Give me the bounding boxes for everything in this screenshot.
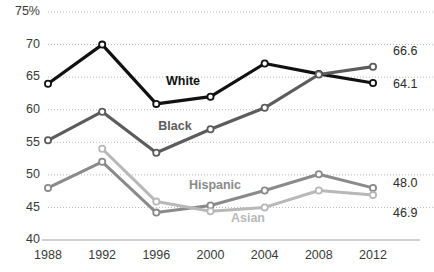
data-point-asian bbox=[262, 204, 268, 210]
data-point-white bbox=[45, 81, 51, 87]
data-point-asian bbox=[370, 192, 376, 198]
series-label-hispanic: Hispanic bbox=[189, 178, 241, 192]
series-label-black: Black bbox=[158, 119, 191, 133]
data-point-asian bbox=[99, 146, 105, 152]
x-axis-labels: 1988199219962000200420082012 bbox=[34, 248, 387, 262]
x-tick-label-2012: 2012 bbox=[359, 248, 387, 262]
y-axis-labels: 4045505560657075% bbox=[15, 4, 40, 246]
data-point-hispanic bbox=[316, 171, 322, 177]
data-point-black bbox=[370, 64, 376, 70]
end-value-label-white: 64.1 bbox=[393, 77, 417, 91]
series-label-white: White bbox=[166, 74, 200, 88]
x-tick-label-2000: 2000 bbox=[197, 248, 225, 262]
data-point-white bbox=[262, 60, 268, 66]
end-value-label-black: 66.6 bbox=[393, 44, 417, 58]
end-value-label-hispanic: 48.0 bbox=[393, 176, 417, 190]
data-point-black bbox=[45, 137, 51, 143]
y-tick-label-70: 70 bbox=[26, 37, 40, 51]
chart-container: 4045505560657075% 1988199219962000200420… bbox=[0, 0, 434, 272]
data-point-hispanic bbox=[153, 210, 159, 216]
x-tick-label-2004: 2004 bbox=[251, 248, 279, 262]
data-point-black bbox=[207, 126, 213, 132]
data-point-black bbox=[153, 150, 159, 156]
y-tick-label-60: 60 bbox=[26, 102, 40, 116]
x-tick-label-2008: 2008 bbox=[305, 248, 333, 262]
y-tick-label-50: 50 bbox=[26, 167, 40, 181]
line-chart: 4045505560657075% 1988199219962000200420… bbox=[0, 0, 434, 272]
y-tick-label-65: 65 bbox=[26, 69, 40, 83]
x-tick-label-1988: 1988 bbox=[34, 248, 62, 262]
data-point-asian bbox=[207, 208, 213, 214]
y-tick-label-75pct: 75% bbox=[15, 4, 40, 18]
data-point-asian bbox=[153, 199, 159, 205]
series-end-value-labels: 66.664.148.046.9 bbox=[393, 44, 417, 220]
data-point-black bbox=[316, 71, 322, 77]
data-point-hispanic bbox=[99, 159, 105, 165]
data-point-white bbox=[207, 94, 213, 100]
y-tick-label-55: 55 bbox=[26, 135, 40, 149]
data-point-asian bbox=[316, 187, 322, 193]
end-value-label-asian: 46.9 bbox=[393, 206, 417, 220]
data-point-black bbox=[99, 109, 105, 115]
x-tick-label-1996: 1996 bbox=[142, 248, 170, 262]
data-point-hispanic bbox=[45, 185, 51, 191]
data-point-white bbox=[99, 42, 105, 48]
data-point-black bbox=[262, 105, 268, 111]
data-point-hispanic bbox=[262, 187, 268, 193]
series-label-asian: Asian bbox=[231, 211, 265, 225]
y-tick-label-45: 45 bbox=[26, 200, 40, 214]
data-point-white bbox=[370, 80, 376, 86]
data-point-white bbox=[153, 101, 159, 107]
data-point-hispanic bbox=[370, 185, 376, 191]
x-tick-label-1992: 1992 bbox=[88, 248, 116, 262]
y-tick-label-40: 40 bbox=[26, 232, 40, 246]
